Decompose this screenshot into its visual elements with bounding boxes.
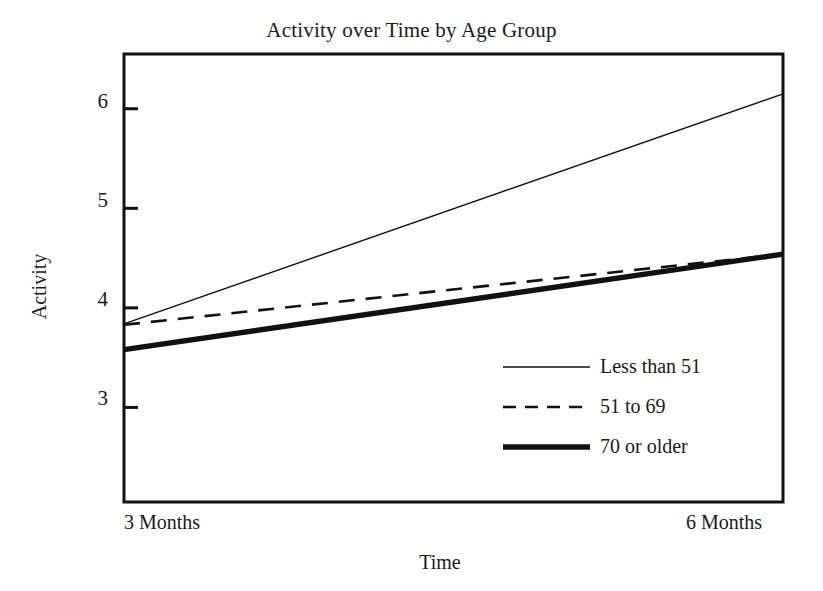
series-lines (124, 94, 783, 350)
axis-frame-path (124, 54, 783, 502)
series-line-70-or-older (124, 254, 783, 350)
axis-frame (124, 54, 783, 502)
legend-swatches (503, 367, 590, 447)
plot-canvas (0, 0, 823, 591)
y-tick-marks (124, 109, 138, 408)
chart-figure: Activity over Time by Age Group Activity… (0, 0, 823, 591)
